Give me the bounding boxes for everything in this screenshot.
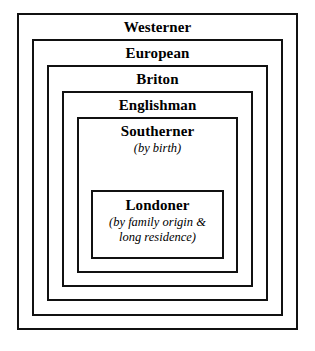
band-european-label: European bbox=[34, 46, 281, 61]
band-englishman-title: Englishman bbox=[64, 98, 251, 113]
band-londoner: Londoner (by family origin & long reside… bbox=[91, 190, 224, 259]
band-southerner-label: Southerner (by birth) bbox=[79, 124, 236, 156]
band-londoner-qualifier: (by family origin & long residence) bbox=[93, 215, 222, 245]
band-londoner-label: Londoner (by family origin & long reside… bbox=[93, 198, 222, 245]
band-westerner-title: Westerner bbox=[19, 20, 296, 35]
nested-identity-diagram: Westerner European Briton Englishman Sou… bbox=[0, 0, 315, 351]
band-briton-title: Briton bbox=[49, 72, 266, 87]
band-westerner-label: Westerner bbox=[19, 20, 296, 35]
band-englishman-label: Englishman bbox=[64, 98, 251, 113]
band-southerner-title: Southerner bbox=[79, 124, 236, 139]
band-londoner-title: Londoner bbox=[93, 198, 222, 213]
band-southerner-qualifier: (by birth) bbox=[79, 141, 236, 156]
band-briton-label: Briton bbox=[49, 72, 266, 87]
band-european-title: European bbox=[34, 46, 281, 61]
